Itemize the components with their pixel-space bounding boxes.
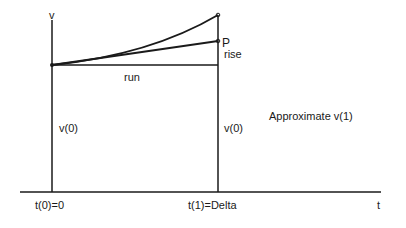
start-point — [50, 63, 54, 67]
v0-left-label: v(0) — [59, 123, 78, 134]
t-axis-label: t — [377, 200, 380, 211]
t1-label: t(1)=Delta — [188, 200, 237, 211]
run-label: run — [124, 72, 140, 83]
v0-right-label: v(0) — [224, 123, 243, 134]
rise-label: rise — [224, 49, 242, 60]
t0-label: t(0)=0 — [35, 200, 64, 211]
tangent-line — [52, 41, 218, 65]
true-curve — [52, 15, 218, 65]
v-axis-label: v — [49, 10, 55, 21]
caption-label: Approximate v(1) — [269, 111, 353, 122]
